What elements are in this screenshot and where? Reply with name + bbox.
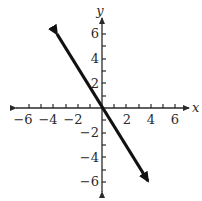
- x-tick-label: −6: [13, 112, 32, 127]
- y-tick-label: −4: [80, 150, 99, 165]
- x-tick-label: 6: [171, 112, 179, 127]
- x-tick-label: −4: [38, 112, 57, 127]
- y-axis: y 6 4 2 −2 −4 −6: [80, 3, 106, 192]
- y-tick-label: −2: [80, 125, 99, 140]
- x-tick-label: 4: [147, 112, 155, 127]
- y-axis-label: y: [95, 3, 104, 18]
- y-tick-label: −6: [80, 174, 99, 189]
- coordinate-plane: x −6 −4 −2 2 4 6 y 6 4 2 −2 −4 −6: [0, 0, 202, 201]
- x-axis-label: x: [192, 100, 200, 115]
- y-tick-label: 4: [91, 51, 99, 66]
- x-tick-label: 2: [123, 112, 131, 127]
- y-tick-label: 6: [91, 26, 99, 41]
